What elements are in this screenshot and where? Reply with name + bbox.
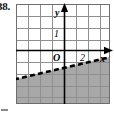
x-unit-label: 2: [80, 52, 85, 63]
graph-figure: 38.: [0, 0, 114, 115]
x-axis-label: x: [99, 53, 105, 64]
origin-label: O: [53, 52, 60, 63]
coordinate-plane-svg: y 1 O 2 x: [0, 0, 114, 115]
page-artifact-mark: [1, 109, 8, 111]
y-unit-label: 1: [54, 28, 59, 39]
y-axis-label: y: [54, 7, 60, 18]
